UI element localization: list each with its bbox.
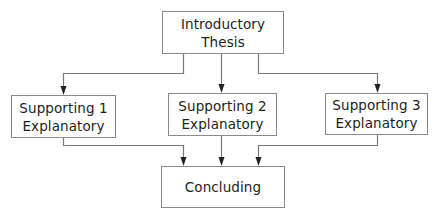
node-label-line2: Explanatory <box>181 115 263 133</box>
arrowhead-icon <box>375 84 381 93</box>
node-label-line2: Thesis <box>201 33 245 51</box>
arrowhead-icon <box>219 157 225 166</box>
node-supporting-3: Supporting 3 Explanatory <box>325 93 428 135</box>
node-supporting-1: Supporting 1 Explanatory <box>11 95 116 138</box>
node-label-line1: Concluding <box>185 178 261 196</box>
node-label-line1: Introductory <box>181 15 265 33</box>
node-label-line2: Explanatory <box>22 117 104 135</box>
node-introductory-thesis: Introductory Thesis <box>162 11 284 54</box>
node-concluding: Concluding <box>161 166 285 208</box>
arrowhead-icon <box>181 157 187 166</box>
edge-support1-to-conclusion <box>64 138 184 157</box>
edge-intro-to-support1 <box>64 53 184 86</box>
node-supporting-2: Supporting 2 Explanatory <box>168 93 277 136</box>
arrowhead-icon <box>61 86 67 95</box>
arrowhead-icon <box>256 157 262 166</box>
node-label-line2: Explanatory <box>335 114 417 132</box>
edge-intro-to-support3 <box>259 53 378 84</box>
node-label-line1: Supporting 3 <box>332 96 420 114</box>
node-label-line1: Supporting 2 <box>178 97 266 115</box>
arrowhead-icon <box>219 84 225 93</box>
edge-support3-to-conclusion <box>259 135 378 157</box>
node-label-line1: Supporting 1 <box>19 99 107 117</box>
